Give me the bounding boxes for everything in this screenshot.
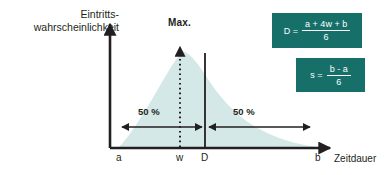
formula-2-lhs: s = <box>310 70 322 80</box>
formula-expected-duration: D = a + 4w + b 6 <box>284 19 350 42</box>
x-tick-label-a: a <box>116 152 122 164</box>
x-tick-label-w: w <box>176 152 183 164</box>
formula-1-lhs: D = <box>284 26 298 36</box>
y-axis-label-line2: wahrscheinlichkeit <box>0 21 119 34</box>
y-axis-label-line1: Eintritts- <box>0 8 119 21</box>
formula-2-numerator: b - a <box>327 64 351 76</box>
formula-1-fraction: a + 4w + b 6 <box>302 19 350 42</box>
formula-1-numerator: a + 4w + b <box>302 19 350 31</box>
formula-2-fraction: b - a 6 <box>327 64 351 87</box>
right-area-percentage-label: 50 % <box>233 106 255 117</box>
max-label: Max. <box>168 17 191 29</box>
x-tick-label-b: b <box>315 152 321 164</box>
x-tick-label-d: D <box>201 152 208 164</box>
formula-box-standard-deviation: s = b - a 6 <box>296 58 365 92</box>
formula-2-denominator: 6 <box>336 76 341 87</box>
pert-distribution-figure: Eintritts- wahrscheinlichkeit Max. 50 % … <box>0 0 391 175</box>
formula-box-expected-duration: D = a + 4w + b 6 <box>272 13 362 48</box>
formula-1-denominator: 6 <box>324 31 329 42</box>
left-area-percentage-label: 50 % <box>138 106 160 117</box>
formula-standard-deviation: s = b - a 6 <box>310 64 350 87</box>
x-axis-label: Zeitdauer <box>334 153 376 165</box>
y-axis-label: Eintritts- wahrscheinlichkeit <box>0 8 119 34</box>
